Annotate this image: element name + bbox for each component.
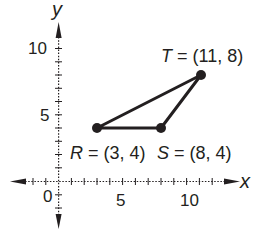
x-axis-label: x (239, 170, 251, 192)
y-axis (55, 22, 62, 229)
point-S (156, 123, 166, 133)
point-T-label: T = (11, 8) (161, 46, 243, 66)
x-axis (10, 178, 240, 185)
y-tick-label-5: 5 (40, 106, 49, 125)
point-T (196, 70, 206, 80)
y-tick-label-10: 10 (28, 39, 47, 58)
x-axis-right-arrow-icon (224, 179, 240, 185)
y-axis-label: y (50, 0, 63, 20)
y-axis-down-arrow-icon (56, 214, 62, 229)
x-axis-left-arrow-icon (10, 179, 26, 185)
x-tick-label-10: 10 (180, 191, 199, 210)
coordinate-plane: y x 10 5 0 5 10 T = (11, 8) R = (3, 4) S… (0, 0, 260, 229)
point-R (92, 123, 102, 133)
origin-label: 0 (43, 187, 52, 206)
point-R-label: R = (3, 4) (70, 143, 146, 163)
y-axis-up-arrow-icon (56, 22, 62, 38)
x-tick-label-5: 5 (116, 191, 125, 210)
point-S-label: S = (8, 4) (157, 143, 232, 163)
triangle-RST (92, 70, 206, 133)
